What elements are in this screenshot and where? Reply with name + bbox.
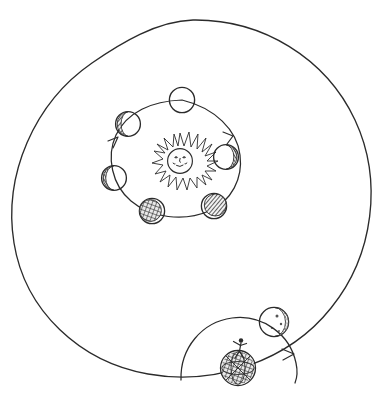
moon-body <box>259 307 288 336</box>
earth-globe <box>221 338 256 385</box>
outer-orbit <box>12 20 371 377</box>
phase-waning-crescent <box>139 198 164 223</box>
diagram-canvas: Earth's orbit and the phases of the Moon… <box>0 0 390 398</box>
phase-waxing-crescent <box>214 145 239 170</box>
phase-new <box>201 193 226 218</box>
astronomy-diagram-svg <box>0 0 390 398</box>
phase-last-quarter <box>102 166 127 191</box>
figure-head <box>239 338 243 342</box>
sun-rays <box>152 132 218 190</box>
sun <box>152 132 218 190</box>
phase-waning-gibbous <box>116 112 141 137</box>
moon-craters <box>271 315 282 332</box>
arrow-inner-right <box>223 132 233 144</box>
figure-arm-left <box>234 342 240 346</box>
figure-torso <box>240 343 242 351</box>
